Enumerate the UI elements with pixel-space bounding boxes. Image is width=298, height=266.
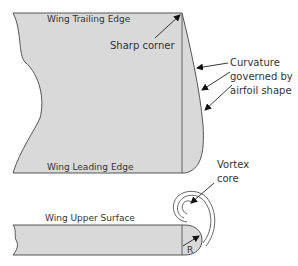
radius-label: R <box>187 245 193 255</box>
wingtip-diagram: Wing Trailing Edge Sharp corner Curvatur… <box>0 0 298 266</box>
curvature-label-2: governed by <box>230 71 293 82</box>
vortex-label-1: Vortex <box>217 159 249 170</box>
upper-surface-label: Wing Upper Surface <box>45 213 135 223</box>
curvature-label-1: Curvature <box>230 57 280 68</box>
sharp-corner-label: Sharp corner <box>110 40 175 51</box>
trailing-edge-label: Wing Trailing Edge <box>47 14 131 24</box>
vortex-label-2: core <box>217 173 239 184</box>
wing-planform <box>13 13 203 173</box>
curvature-arrow-2 <box>202 72 230 90</box>
curvature-arrow-3 <box>205 85 232 110</box>
curvature-arrow-1 <box>197 63 228 68</box>
curvature-label-3: airfoil shape <box>230 85 292 96</box>
leading-edge-label: Wing Leading Edge <box>47 162 134 172</box>
vortex-core-arrow <box>191 183 214 203</box>
wing-cross-section <box>13 225 202 255</box>
